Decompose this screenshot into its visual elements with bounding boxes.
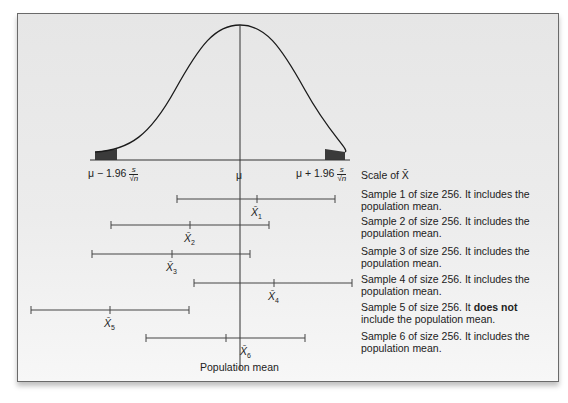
desc-text: Sample 6 of size 256. It xyxy=(361,330,471,342)
sample-desc-4: Sample 4 of size 256. It includes the po… xyxy=(361,273,551,297)
desc-text: Sample 2 of size 256. It xyxy=(361,215,471,227)
sample-desc-5: Sample 5 of size 256. It does not includ… xyxy=(361,301,551,325)
frac-den: √n xyxy=(129,175,138,183)
upper-bound-prefix: μ + 1.96 xyxy=(296,167,334,179)
desc-text: Sample 3 of size 256. It xyxy=(361,245,471,257)
desc-text: Sample 1 of size 256. It xyxy=(361,188,471,200)
desc-text: include the population mean. xyxy=(361,313,495,325)
interval-5 xyxy=(31,306,189,314)
population-mean-label: Population mean xyxy=(200,361,279,373)
sample-mean-label-5: X̄5 xyxy=(104,317,115,334)
subscript: 6 xyxy=(247,352,251,359)
sample-desc-2: Sample 2 of size 256. It includes the po… xyxy=(361,215,551,239)
interval-2 xyxy=(111,221,269,229)
scale-label: Scale of X̄ xyxy=(361,169,409,181)
sample-desc-3: Sample 3 of size 256. It includes the po… xyxy=(361,245,551,269)
subscript: 4 xyxy=(275,297,279,304)
frac-den: √n xyxy=(337,175,346,183)
subscript: 1 xyxy=(258,213,262,220)
subscript: 2 xyxy=(191,239,195,246)
interval-4 xyxy=(194,279,352,287)
interval-3 xyxy=(92,250,250,258)
sample-mean-label-4: X̄4 xyxy=(268,290,279,307)
lower-bound-prefix: μ − 1.96 xyxy=(88,167,126,179)
interval-6 xyxy=(146,334,305,342)
interval-1 xyxy=(177,195,335,203)
lower-bound-label: μ − 1.96 s √n xyxy=(88,166,138,183)
right-tail-shading xyxy=(325,149,345,160)
sample-desc-6: Sample 6 of size 256. It includes the po… xyxy=(361,330,551,354)
sample-mean-label-1: X̄1 xyxy=(251,206,262,223)
desc-bold: does not xyxy=(474,301,518,313)
sample-desc-1: Sample 1 of size 256. It includes the po… xyxy=(361,188,551,212)
sample-mean-label-2: X̄2 xyxy=(184,232,195,249)
sample-mean-label-3: X̄3 xyxy=(166,261,177,278)
upper-bound-label: μ + 1.96 s √n xyxy=(296,166,346,183)
normal-curve xyxy=(95,25,346,152)
desc-text: Sample 5 of size 256. It xyxy=(361,301,474,313)
subscript: 3 xyxy=(173,268,177,275)
sample-mean-label-6: X̄6 xyxy=(240,345,251,362)
desc-text: Sample 4 of size 256. It xyxy=(361,273,471,285)
subscript: 5 xyxy=(111,324,115,331)
mu-label: μ xyxy=(236,169,242,181)
